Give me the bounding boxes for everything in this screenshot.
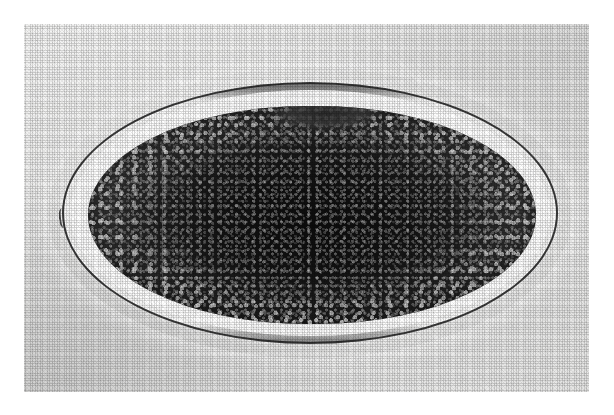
egg-shell-wall [62, 82, 558, 344]
egg-specimen [62, 82, 558, 344]
figure-root [0, 0, 614, 415]
micrograph-print [24, 24, 589, 392]
embryo-rim-speckle [88, 106, 536, 324]
embryo-granule-texture [88, 106, 536, 324]
embryo-top-bulge [267, 106, 383, 131]
figure-caption [24, 396, 589, 412]
embryonic-mass [88, 106, 536, 324]
